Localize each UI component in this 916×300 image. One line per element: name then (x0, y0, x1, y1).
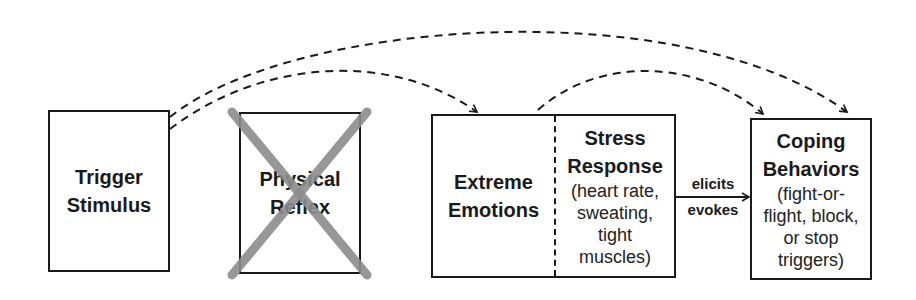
node-detail: (heart rate, (571, 180, 659, 202)
node-title: Extreme (454, 168, 533, 196)
node-detail: (fight-or- (777, 183, 845, 205)
edge-label-evokes: evokes (675, 201, 751, 218)
node-title: Stress (584, 124, 645, 152)
node-detail: flight, block, (763, 205, 858, 227)
node-title: Coping (777, 127, 846, 155)
node-emotions-stress: Extreme Emotions Stress Response (heart … (431, 114, 676, 278)
node-detail: triggers) (778, 249, 844, 271)
arc-emotions-to-coping (538, 71, 763, 114)
node-trigger-stimulus: Trigger Stimulus (48, 110, 170, 272)
node-stress-response: Stress Response (heart rate, sweating, t… (556, 116, 674, 276)
node-detail: sweating, (577, 202, 653, 224)
node-coping-behaviors: Coping Behaviors (fight-or- flight, bloc… (750, 118, 872, 280)
node-title: Reflex (270, 193, 330, 221)
node-detail: muscles) (579, 246, 651, 268)
arc-trigger-to-coping (170, 32, 847, 117)
node-extreme-emotions: Extreme Emotions (433, 116, 554, 276)
node-title: Emotions (448, 196, 539, 224)
edge-label-elicits: elicits (675, 175, 751, 192)
node-detail: or stop (783, 227, 838, 249)
node-physical-reflex: Physical Reflex (239, 112, 361, 274)
node-title: Trigger (75, 163, 143, 191)
node-title: Behaviors (763, 155, 860, 183)
node-title: Stimulus (67, 191, 151, 219)
node-title: Physical (259, 165, 340, 193)
node-title: Response (567, 152, 663, 180)
node-detail: tight (598, 224, 632, 246)
